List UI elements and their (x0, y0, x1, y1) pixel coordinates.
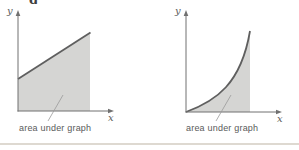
right-shaded-area (186, 31, 250, 112)
left-y-axis-arrowhead-icon (16, 10, 21, 16)
right-x-axis-label: x (277, 114, 283, 124)
left-y-axis-label: y (7, 6, 13, 16)
left-x-axis-label: x (108, 113, 114, 123)
right-y-axis-label: y (175, 6, 181, 16)
left-caption: area under graph (19, 124, 91, 133)
left-graph (16, 10, 114, 121)
figure-area-under-graph: g y x area under gr (0, 0, 299, 150)
right-y-axis-arrowhead-icon (184, 10, 189, 16)
right-graph (184, 10, 282, 121)
right-caption: area under graph (186, 124, 258, 133)
bottom-divider-rule (0, 143, 299, 145)
